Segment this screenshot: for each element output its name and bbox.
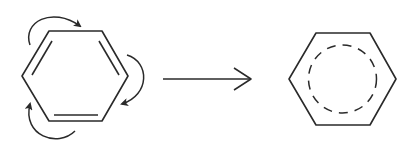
double-bond-right [99, 41, 119, 75]
benzene-resonance-diagram [0, 0, 411, 146]
kekule-benzene [22, 17, 144, 139]
hexagon-ring [22, 31, 128, 121]
double-bond-left [32, 41, 52, 75]
delocalized-pi-circle [309, 45, 377, 113]
hexagon-ring [289, 33, 396, 125]
reaction-arrow-icon [163, 68, 251, 90]
delocalized-benzene [289, 33, 396, 125]
